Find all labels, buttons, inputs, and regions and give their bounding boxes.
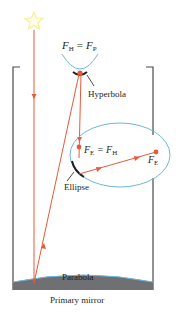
parabola-label: Parabola xyxy=(62,272,94,282)
arrow-right-icon xyxy=(96,167,102,172)
ellipse-leader xyxy=(67,172,74,181)
hyperbola-label: Hyperbola xyxy=(88,89,126,99)
primary-mirror-label: Primary mirror xyxy=(50,295,104,305)
star-icon xyxy=(25,12,43,29)
focus-equation-ellipse: FE=FH xyxy=(83,144,117,157)
tube-left-wall xyxy=(13,67,20,290)
ellipse-focus-dot xyxy=(77,145,82,150)
reflected-ray-primary xyxy=(34,74,79,283)
hyperbola-leader xyxy=(87,75,94,86)
primary-focus-dot xyxy=(77,70,82,75)
tube-right-wall xyxy=(146,67,153,135)
focus-equation-top: FH=FP xyxy=(61,39,97,53)
ellipse-mirror xyxy=(72,161,84,177)
ellipse-curve xyxy=(70,123,170,187)
hyperbola-curve xyxy=(62,54,98,69)
arrow-down-icon xyxy=(32,94,37,99)
ellipse-far-focus-label: FE xyxy=(147,154,158,167)
telescope-diagram: FH=FP Hyperbola FE=FH FE Ellipse Parabol… xyxy=(0,0,176,312)
ellipse-label: Ellipse xyxy=(64,182,89,192)
